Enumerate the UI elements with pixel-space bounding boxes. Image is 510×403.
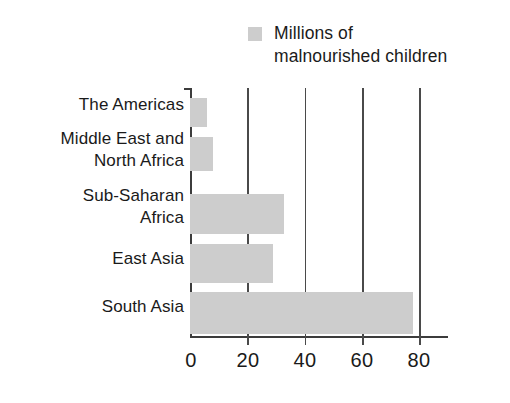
category-label-the-americas: The Americas xyxy=(0,94,184,116)
legend-swatch-icon xyxy=(248,27,262,41)
category-axis-labels: The Americas Middle East and North Afric… xyxy=(0,88,184,338)
bar-east-asia xyxy=(190,244,273,283)
bar-south-asia xyxy=(190,292,413,334)
category-label-east-asia: East Asia xyxy=(0,248,184,270)
x-tick-mark-60 xyxy=(362,338,364,345)
y-axis-top-tick xyxy=(184,88,190,90)
category-label-sub-saharan-africa: Sub-Saharan Africa xyxy=(0,185,184,229)
legend-label: Millions of malnourished children xyxy=(274,22,447,69)
gridline-80 xyxy=(419,88,421,338)
x-tick-label-60: 60 xyxy=(351,349,374,372)
bar-chart-figure: Millions of malnourished children The Am… xyxy=(0,0,510,403)
x-tick-mark-80 xyxy=(419,338,421,345)
bar-the-americas xyxy=(190,98,207,127)
category-label-south-asia: South Asia xyxy=(0,296,184,318)
x-axis-line xyxy=(190,336,448,338)
x-tick-label-40: 40 xyxy=(294,349,317,372)
x-tick-mark-20 xyxy=(247,338,249,345)
x-tick-label-80: 80 xyxy=(408,349,431,372)
bar-sub-saharan-africa xyxy=(190,194,284,234)
plot-area xyxy=(190,88,448,338)
bar-middle-east-and-north-africa xyxy=(190,137,213,171)
category-label-middle-east-and-north-africa: Middle East and North Africa xyxy=(0,128,184,172)
chart-legend: Millions of malnourished children xyxy=(248,22,447,69)
x-tick-mark-40 xyxy=(305,338,307,345)
x-tick-label-0: 0 xyxy=(185,349,196,372)
x-tick-label-20: 20 xyxy=(237,349,260,372)
